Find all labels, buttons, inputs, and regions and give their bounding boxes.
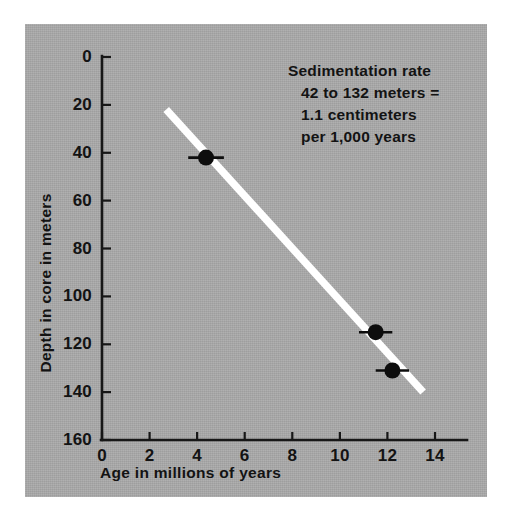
x-tick-label-2: 2	[145, 446, 155, 466]
annotation-line-4: per 1,000 years	[288, 126, 439, 148]
x-tick-label-12: 12	[378, 446, 397, 466]
y-tick-label-140: 140	[50, 382, 92, 402]
figure-root: 0 20 40 60 80 100 120 140 160 0 2 4 6 8 …	[0, 0, 507, 524]
x-tick-label-10: 10	[330, 446, 349, 466]
annotation-line-2: 42 to 132 meters =	[288, 82, 439, 104]
y-tick-label-120: 120	[50, 334, 92, 354]
x-tick-label-6: 6	[240, 446, 250, 466]
y-axis-ticks	[102, 57, 111, 440]
y-tick-label-160: 160	[50, 430, 92, 450]
y-tick-label-100: 100	[50, 286, 92, 306]
marker-dot-2	[368, 324, 384, 340]
y-axis-title: Depth in core in meters	[37, 193, 55, 373]
y-tick-label-40: 40	[58, 143, 92, 163]
annotation-line-3: 1.1 centimeters	[288, 104, 439, 126]
y-tick-label-80: 80	[58, 239, 92, 259]
y-tick-label-20: 20	[58, 95, 92, 115]
annotation-line-1: Sedimentation rate	[288, 60, 439, 82]
x-tick-label-0: 0	[97, 446, 107, 466]
sedimentation-rate-annotation: Sedimentation rate 42 to 132 meters = 1.…	[288, 60, 439, 148]
marker-dot-1	[198, 150, 214, 166]
marker-dot-3	[384, 363, 400, 379]
y-tick-label-0: 0	[58, 47, 92, 67]
x-tick-label-8: 8	[287, 446, 297, 466]
x-tick-label-4: 4	[192, 446, 202, 466]
y-tick-label-60: 60	[58, 191, 92, 211]
x-tick-label-14: 14	[425, 446, 444, 466]
x-axis-title: Age in millions of years	[100, 464, 281, 482]
